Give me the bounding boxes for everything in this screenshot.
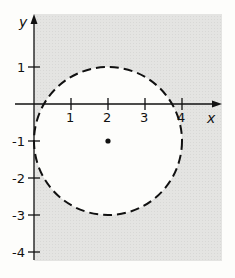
circle-region-diagram: 1 2 3 4 x 1 -1 -2 -3 -4 y	[0, 0, 235, 278]
y-tick-label: -2	[12, 171, 25, 186]
x-axis-label: x	[206, 110, 216, 126]
y-tick-label: 1	[17, 60, 25, 75]
center-point	[105, 138, 110, 143]
x-tick-label: 1	[66, 110, 74, 125]
y-tick-label: -1	[12, 134, 25, 149]
x-tick-label: 3	[140, 110, 148, 125]
y-axis-label: y	[18, 14, 28, 30]
x-tick-label: 2	[103, 110, 111, 125]
y-tick-label: -4	[12, 245, 25, 260]
y-tick-label: -3	[12, 208, 25, 223]
shaded-region	[34, 14, 222, 261]
